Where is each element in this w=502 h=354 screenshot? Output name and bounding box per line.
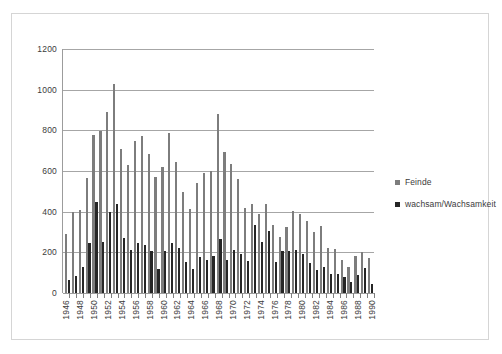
x-axis-label-slot: 1954 bbox=[119, 298, 126, 348]
bar-wachsam-wachsamkeit-1979 bbox=[295, 250, 297, 293]
bar-group-1975 bbox=[264, 49, 271, 293]
bar-group-1986 bbox=[340, 49, 347, 293]
bar-feinde-1952 bbox=[106, 112, 108, 293]
bar-feinde-1990 bbox=[368, 258, 370, 293]
x-axis-label-slot: 1984 bbox=[327, 298, 334, 348]
bar-feinde-1980 bbox=[299, 214, 301, 293]
bar-group-1952 bbox=[105, 49, 112, 293]
bar-group-1988 bbox=[353, 49, 360, 293]
bar-group-1947 bbox=[71, 49, 78, 293]
bar-feinde-1962 bbox=[175, 162, 177, 293]
x-axis-label-slot: 1948 bbox=[77, 298, 84, 348]
x-axis-labels: 1946194819501952195419561958196019621964… bbox=[63, 298, 375, 348]
bar-wachsam-wachsamkeit-1988 bbox=[357, 275, 359, 293]
legend-swatch-icon bbox=[395, 180, 400, 185]
bar-wachsam-wachsamkeit-1969 bbox=[226, 260, 228, 293]
bar-group-1972 bbox=[243, 49, 250, 293]
bar-feinde-1949 bbox=[86, 178, 88, 293]
legend-item-1[interactable]: Feinde bbox=[395, 177, 495, 187]
bar-feinde-1953 bbox=[113, 84, 115, 293]
bar-feinde-1978 bbox=[285, 227, 287, 293]
bar-group-1978 bbox=[285, 49, 292, 293]
bar-group-1970 bbox=[229, 49, 236, 293]
bar-feinde-1967 bbox=[210, 171, 212, 293]
bar-group-1974 bbox=[257, 49, 264, 293]
bar-feinde-1984 bbox=[327, 248, 329, 293]
bar-feinde-1985 bbox=[334, 249, 336, 293]
bar-group-1946 bbox=[64, 49, 71, 293]
bar-wachsam-wachsamkeit-1983 bbox=[323, 267, 325, 293]
bar-feinde-1982 bbox=[313, 232, 315, 293]
bar-group-1976 bbox=[271, 49, 278, 293]
bar-wachsam-wachsamkeit-1958 bbox=[150, 251, 152, 293]
x-axis-label-slot: 1960 bbox=[160, 298, 167, 348]
bar-feinde-1959 bbox=[154, 177, 156, 293]
y-axis-tick-label: 200 bbox=[42, 247, 57, 257]
bar-wachsam-wachsamkeit-1984 bbox=[330, 274, 332, 293]
bar-group-1989 bbox=[360, 49, 367, 293]
bar-wachsam-wachsamkeit-1950 bbox=[95, 202, 97, 294]
bar-group-1954 bbox=[119, 49, 126, 293]
bar-group-1967 bbox=[209, 49, 216, 293]
bar-group-1953 bbox=[112, 49, 119, 293]
bar-wachsam-wachsamkeit-1954 bbox=[123, 238, 125, 293]
x-axis-label-slot: 1982 bbox=[313, 298, 320, 348]
bar-wachsam-wachsamkeit-1960 bbox=[164, 251, 166, 293]
bar-group-1966 bbox=[202, 49, 209, 293]
y-axis-tick-label: 400 bbox=[42, 207, 57, 217]
bar-group-1957 bbox=[140, 49, 147, 293]
bar-group-1949 bbox=[85, 49, 92, 293]
bar-feinde-1987 bbox=[347, 267, 349, 293]
bar-wachsam-wachsamkeit-1952 bbox=[109, 212, 111, 293]
bar-wachsam-wachsamkeit-1975 bbox=[268, 231, 270, 293]
y-axis-tick-label: 600 bbox=[42, 166, 57, 176]
x-axis-label-slot: 1972 bbox=[243, 298, 250, 348]
bar-feinde-1979 bbox=[292, 211, 294, 293]
bar-wachsam-wachsamkeit-1948 bbox=[82, 267, 84, 293]
bar-wachsam-wachsamkeit-1990 bbox=[371, 284, 373, 293]
x-axis-label-slot: 1986 bbox=[341, 298, 348, 348]
bar-feinde-1973 bbox=[251, 204, 253, 293]
bar-wachsam-wachsamkeit-1964 bbox=[192, 269, 194, 293]
bar-wachsam-wachsamkeit-1953 bbox=[116, 204, 118, 293]
bar-feinde-1946 bbox=[65, 234, 67, 293]
bar-group-1979 bbox=[291, 49, 298, 293]
bar-group-1973 bbox=[250, 49, 257, 293]
bar-group-1982 bbox=[312, 49, 319, 293]
x-axis-label-slot: 1988 bbox=[354, 298, 361, 348]
bar-wachsam-wachsamkeit-1971 bbox=[240, 254, 242, 293]
plot-area: 020040060080010001200 bbox=[62, 49, 374, 293]
bar-feinde-1972 bbox=[244, 208, 246, 293]
bar-wachsam-wachsamkeit-1957 bbox=[144, 245, 146, 293]
bar-group-1963 bbox=[181, 49, 188, 293]
bar-feinde-1966 bbox=[203, 173, 205, 293]
bar-feinde-1960 bbox=[161, 167, 163, 293]
bar-wachsam-wachsamkeit-1986 bbox=[343, 277, 345, 293]
bar-feinde-1975 bbox=[265, 204, 267, 293]
bar-wachsam-wachsamkeit-1980 bbox=[302, 254, 304, 293]
bar-wachsam-wachsamkeit-1961 bbox=[171, 243, 173, 293]
x-axis-label-slot: 1956 bbox=[132, 298, 139, 348]
legend-label: Feinde bbox=[405, 177, 432, 187]
bar-wachsam-wachsamkeit-1989 bbox=[364, 268, 366, 293]
chart-frame: 020040060080010001200 194619481950195219… bbox=[11, 13, 489, 340]
bar-wachsam-wachsamkeit-1987 bbox=[350, 282, 352, 293]
bar-group-1958 bbox=[147, 49, 154, 293]
bar-feinde-1956 bbox=[134, 141, 136, 293]
legend-label: wachsam/Wachsamkeit bbox=[405, 199, 496, 209]
bar-feinde-1963 bbox=[182, 192, 184, 293]
x-axis-label-slot: 1952 bbox=[105, 298, 112, 348]
bar-wachsam-wachsamkeit-1947 bbox=[75, 276, 77, 293]
bar-wachsam-wachsamkeit-1949 bbox=[88, 243, 90, 293]
legend-item-2[interactable]: wachsam/Wachsamkeit bbox=[395, 199, 495, 209]
bar-group-1951 bbox=[98, 49, 105, 293]
bar-group-1948 bbox=[78, 49, 85, 293]
bar-group-1968 bbox=[216, 49, 223, 293]
bar-group-1962 bbox=[174, 49, 181, 293]
bar-group-1959 bbox=[154, 49, 161, 293]
bar-feinde-1950 bbox=[92, 135, 94, 293]
bar-feinde-1965 bbox=[196, 183, 198, 293]
bar-group-1980 bbox=[298, 49, 305, 293]
x-axis-label-slot: 1978 bbox=[285, 298, 292, 348]
bar-wachsam-wachsamkeit-1970 bbox=[233, 250, 235, 293]
